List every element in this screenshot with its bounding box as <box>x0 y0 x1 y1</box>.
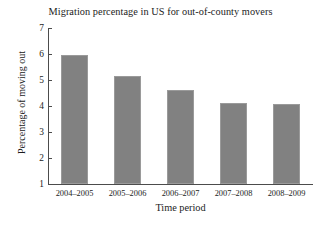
plot-area: 1234567 2004–20052005–20062006–20072007–… <box>48 28 313 184</box>
y-tick-label: 2 <box>32 154 44 163</box>
chart-title: Migration percentage in US for out-of-co… <box>0 6 321 18</box>
y-tick-label: 6 <box>32 50 44 59</box>
y-tick <box>48 132 52 133</box>
y-axis-title: Percentage of moving out <box>16 28 27 178</box>
x-tick-label: 2008–2009 <box>260 189 313 199</box>
y-tick-label: 1 <box>32 180 44 189</box>
y-tick <box>48 184 52 185</box>
bar <box>273 104 300 184</box>
bar <box>220 103 247 184</box>
y-tick-label: 4 <box>32 102 44 111</box>
y-tick-label: 5 <box>32 76 44 85</box>
y-tick <box>48 106 52 107</box>
y-tick-label: 3 <box>32 128 44 137</box>
bar-chart-figure: Migration percentage in US for out-of-co… <box>0 0 321 227</box>
x-tick-label: 2007–2008 <box>207 189 260 199</box>
y-tick <box>48 28 52 29</box>
y-tick <box>48 158 52 159</box>
bar <box>167 90 194 184</box>
bar <box>114 76 141 184</box>
x-tick-label: 2004–2005 <box>48 189 101 199</box>
y-tick <box>48 54 52 55</box>
bar <box>61 55 88 184</box>
x-tick-label: 2005–2006 <box>101 189 154 199</box>
y-tick-label: 7 <box>32 24 44 33</box>
x-axis-title: Time period <box>48 202 313 214</box>
y-tick <box>48 80 52 81</box>
x-axis-line <box>48 184 313 185</box>
x-tick-label: 2006–2007 <box>154 189 207 199</box>
